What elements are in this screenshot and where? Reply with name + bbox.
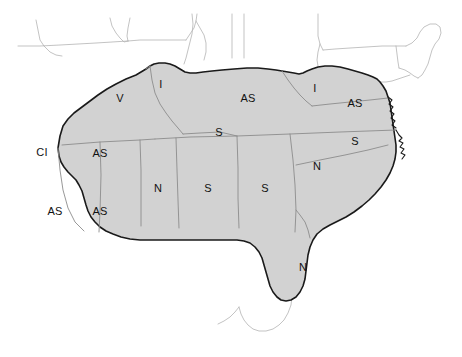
map-svg-canvas [0, 0, 462, 357]
map-figure: CIVIASIASASSSASASNSSNN [0, 0, 462, 357]
